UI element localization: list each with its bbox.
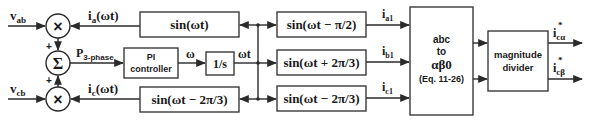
ic-label: ic(ωt) [88, 81, 118, 98]
svg-text:sin(ωt − 2π/3): sin(ωt − 2π/3) [151, 92, 227, 107]
abc-to-alphabeta0-block: abc to αβ0 (Eq. 11-26) [410, 7, 473, 115]
multiplier-bottom: × [46, 87, 70, 111]
pll-current-reference-diagram: vab vcb × Σ × + + ia(ωt) ic(ωt) P3-phase… [0, 0, 594, 121]
multiply-icon: × [53, 18, 62, 35]
svg-text:1/s: 1/s [213, 57, 227, 71]
integrator-block: 1/s [206, 52, 234, 75]
svg-text:sin(ωt − π/2): sin(ωt − π/2) [287, 17, 357, 32]
out-alpha-star: * [558, 20, 563, 30]
sin-wt-minus-2pi3-right-block: sin(ωt − 2π/3) [277, 86, 366, 111]
svg-text:sin(ωt − 2π/3): sin(ωt − 2π/3) [283, 91, 359, 106]
ia1-label: ia1 [382, 7, 393, 23]
input-vab-label: vab [10, 8, 26, 25]
p3phase-label: P3-phase [76, 46, 114, 62]
out-beta-star: * [558, 55, 563, 65]
omega-label: ω [186, 47, 195, 61]
svg-text:vab: vab [10, 8, 26, 25]
ib1-label: ib1 [382, 44, 394, 60]
sin-wt-plus-2pi3-block: sin(ωt + 2π/3) [277, 50, 366, 75]
plus-sign-top: + [46, 41, 52, 52]
svg-text:sin(ωt): sin(ωt) [170, 17, 208, 32]
sin-wt-minus-pi2-block: sin(ωt − π/2) [277, 12, 366, 37]
svg-text:vcb: vcb [10, 81, 26, 98]
multiply-icon: × [53, 91, 62, 108]
input-vcb-label: vcb [10, 81, 26, 98]
sin-wt-minus-2pi3-left-block: sin(ωt − 2π/3) [140, 87, 239, 112]
ic1-label: ic1 [382, 80, 393, 96]
multiplier-top: × [46, 14, 70, 38]
sin-wt-block: sin(ωt) [140, 12, 239, 37]
svg-text:αβ0: αβ0 [431, 57, 452, 72]
pi-controller-block: PI controller [124, 48, 178, 78]
svg-text:(Eq. 11-26): (Eq. 11-26) [419, 74, 464, 84]
svg-text:magnitude: magnitude [494, 49, 542, 60]
svg-text:to: to [437, 46, 446, 57]
svg-text:divider: divider [502, 62, 533, 73]
svg-text:abc: abc [433, 34, 451, 45]
omega-t-label: ωt [238, 47, 251, 61]
svg-text:PI: PI [147, 52, 156, 62]
magnitude-divider-block: magnitude divider [488, 31, 548, 91]
sigma-icon: Σ [53, 55, 63, 72]
svg-text:sin(ωt + 2π/3): sin(ωt + 2π/3) [283, 55, 359, 70]
svg-text:controller: controller [130, 64, 172, 74]
ia-label: ia(ωt) [88, 8, 119, 25]
summation-junction: Σ [46, 51, 70, 75]
plus-sign-bottom: + [46, 75, 52, 86]
